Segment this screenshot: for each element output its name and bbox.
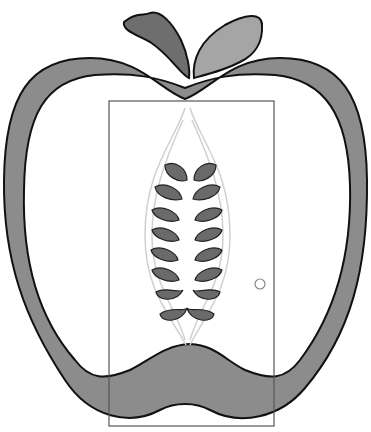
seed-icon <box>193 185 220 200</box>
seed-icon <box>152 228 179 241</box>
seed-icon <box>195 208 222 221</box>
apple-illustration-svg <box>0 0 371 432</box>
seed-icon <box>155 185 182 200</box>
seed-icon <box>156 290 183 300</box>
seed-icon <box>195 268 222 281</box>
seed-icon <box>194 163 216 180</box>
apple-ring <box>4 58 367 418</box>
seed-icon <box>193 290 220 300</box>
seed-icon <box>152 208 179 221</box>
seed-icon <box>160 308 187 320</box>
seed-icon <box>151 248 178 261</box>
apple-seeds <box>151 163 222 320</box>
door-knob[interactable] <box>255 279 265 289</box>
seed-icon <box>165 163 187 180</box>
apple-door-illustration <box>0 0 371 432</box>
seed-icon <box>195 228 222 241</box>
seed-icon <box>195 248 222 261</box>
seed-icon <box>152 268 179 281</box>
